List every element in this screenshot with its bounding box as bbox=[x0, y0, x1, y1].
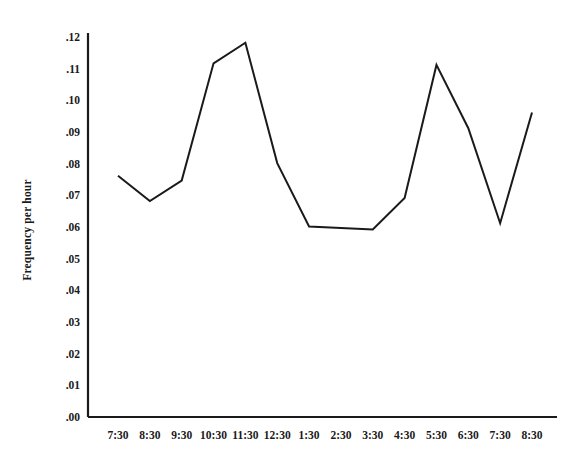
frequency-per-hour-line-chart: Frequency per hour .12.11.10.09.08.07.06… bbox=[0, 0, 584, 463]
x-tick-label: 8:30 bbox=[509, 430, 555, 442]
x-axis-tick-labels: 7:308:309:3010:3011:3012:301:302:303:304… bbox=[0, 0, 584, 463]
